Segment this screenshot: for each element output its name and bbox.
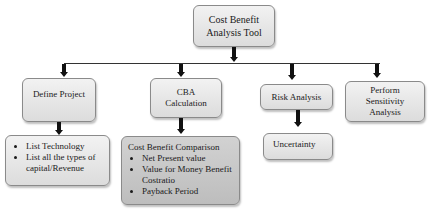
cbc-heading: Cost Benefit Comparison [128, 142, 233, 153]
node-define-project-details: List Technology List all the types of ca… [5, 135, 110, 186]
list-item: Payback Period [142, 186, 233, 197]
list-item: Value for Money Benefit Costratio [142, 164, 233, 186]
define-project-label: Define Project [33, 89, 85, 100]
sensitivity-label-line2: Sensitivity [366, 96, 405, 107]
node-cost-benefit-comparison: Cost Benefit Comparison Net Present valu… [121, 136, 240, 205]
uncertainty-label: Uncertainty [273, 139, 315, 150]
root-label-line1: Cost Benefit [209, 13, 259, 26]
node-cba-calculation: CBA Calculation [150, 78, 222, 118]
cba-label-line2: Calculation [165, 98, 207, 109]
sensitivity-label-line3: Analysis [369, 107, 401, 118]
root-node-cost-benefit-analysis-tool: Cost Benefit Analysis Tool [193, 5, 275, 47]
cba-label-line1: CBA [177, 87, 196, 98]
list-item: List all the types of capital/Revenue [26, 152, 103, 174]
node-risk-analysis: Risk Analysis [260, 84, 333, 110]
node-perform-sensitivity-analysis: Perform Sensitivity Analysis [345, 81, 425, 122]
list-item: Net Present value [142, 153, 233, 164]
root-label-line2: Analysis Tool [206, 26, 262, 39]
list-item: List Technology [26, 141, 103, 152]
cbc-list: Net Present value Value for Money Benefi… [128, 153, 233, 197]
node-define-project: Define Project [22, 78, 96, 122]
node-uncertainty: Uncertainty [263, 133, 333, 160]
connector-line [64, 63, 380, 64]
sensitivity-label-line1: Perform [370, 85, 400, 96]
risk-analysis-label: Risk Analysis [272, 92, 322, 103]
define-project-list: List Technology List all the types of ca… [12, 141, 103, 174]
